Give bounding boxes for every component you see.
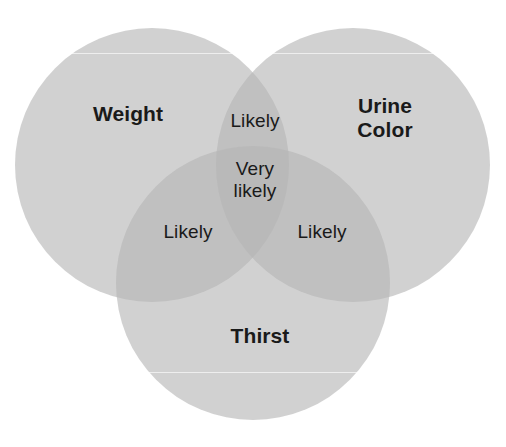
venn-circles-graphic: [0, 0, 506, 447]
venn-diagram: Weight Urine Color Thirst Likely Very li…: [0, 0, 506, 447]
venn-circle-thirst: [116, 146, 390, 420]
